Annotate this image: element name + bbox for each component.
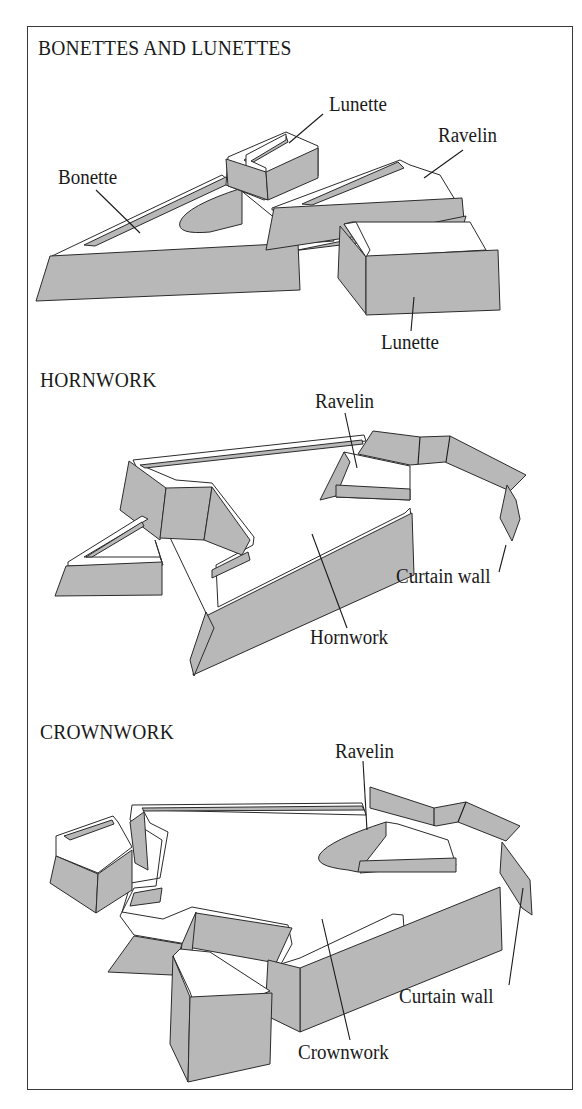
section-title-hornwork: HORNWORK <box>40 368 156 393</box>
leader-lunette-top <box>289 114 323 143</box>
lunette-top-shape <box>226 132 318 200</box>
section-title-bonettes-lunettes: BONETTES AND LUNETTES <box>38 36 291 61</box>
label-ravelin-1: Ravelin <box>438 124 497 147</box>
leader-ravelin-1 <box>424 150 463 178</box>
leader-curtain-wall-3 <box>509 888 523 985</box>
label-lunette-top: Lunette <box>329 93 387 116</box>
crownwork-ravelin-shape <box>319 822 456 873</box>
label-hornwork: Hornwork <box>310 626 388 649</box>
leader-curtain-wall-2 <box>499 545 506 572</box>
label-ravelin-3: Ravelin <box>335 740 394 763</box>
label-crownwork: Crownwork <box>298 1041 389 1064</box>
label-ravelin-2: Ravelin <box>315 390 374 413</box>
label-curtain-wall-3: Curtain wall <box>399 985 493 1008</box>
lunette-bottom-shape <box>338 222 500 315</box>
section-title-crownwork: CROWNWORK <box>40 720 174 745</box>
leader-ravelin-3 <box>363 761 367 830</box>
label-lunette-bottom: Lunette <box>381 331 439 354</box>
label-curtain-wall-2: Curtain wall <box>396 565 490 588</box>
label-bonette: Bonette <box>58 166 117 189</box>
